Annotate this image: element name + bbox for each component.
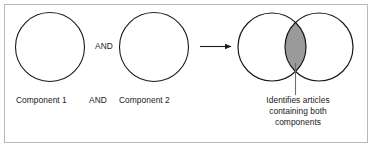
diagram-canvas [0, 0, 376, 153]
component-1-label: Component 1 [16, 95, 67, 106]
component-1-circle [16, 13, 85, 82]
result-caption-line-1: Identifies articles [266, 95, 329, 106]
operator-label-top: AND [95, 41, 113, 52]
operator-label-bottom: AND [89, 95, 107, 106]
result-caption-line-3: components [266, 117, 329, 128]
result-caption: Identifies articles containing both comp… [266, 95, 329, 128]
result-caption-line-2: containing both [266, 106, 329, 117]
component-2-circle [120, 13, 189, 82]
component-2-label: Component 2 [119, 95, 170, 106]
figure-root: AND Component 1 AND Component 2 Identifi… [0, 0, 376, 153]
